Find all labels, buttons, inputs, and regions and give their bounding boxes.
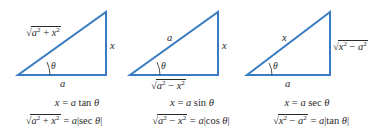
substitution-1: x = a tan θ bbox=[35, 98, 119, 109]
angle-label-2: θ bbox=[161, 62, 166, 72]
adjacent-label-2: √a2 − x2 bbox=[151, 79, 186, 92]
triangle-sin bbox=[130, 12, 218, 75]
identity-1: √a2 + x2 = a|sec θ| bbox=[2, 114, 126, 127]
angle-arc-3 bbox=[269, 63, 272, 75]
substitution-2: x = a sin θ bbox=[150, 98, 234, 109]
angle-arc-1 bbox=[47, 62, 50, 75]
identity-3: √x2 − a2 = a|tan θ| bbox=[249, 114, 373, 127]
identity-2: √a2 − x2 = a|cos θ| bbox=[127, 114, 255, 127]
hypotenuse-label-3: x bbox=[282, 33, 287, 44]
angle-label-1: θ bbox=[51, 62, 56, 72]
hypotenuse-label-1: √a2 + x2 bbox=[26, 26, 61, 39]
opposite-label-2: x bbox=[222, 41, 227, 52]
triangle-tan bbox=[18, 12, 106, 75]
adjacent-label-1: a bbox=[60, 79, 65, 90]
substitution-3: x = a sec θ bbox=[265, 98, 349, 109]
hypotenuse-label-2: a bbox=[167, 33, 172, 44]
opposite-label-3: √x2 − a2 bbox=[333, 40, 368, 53]
triangle-sec bbox=[247, 12, 330, 75]
angle-arc-2 bbox=[157, 62, 160, 75]
opposite-label-1: x bbox=[110, 41, 115, 52]
angle-label-3: θ bbox=[273, 62, 278, 72]
adjacent-label-3: a bbox=[285, 79, 290, 90]
